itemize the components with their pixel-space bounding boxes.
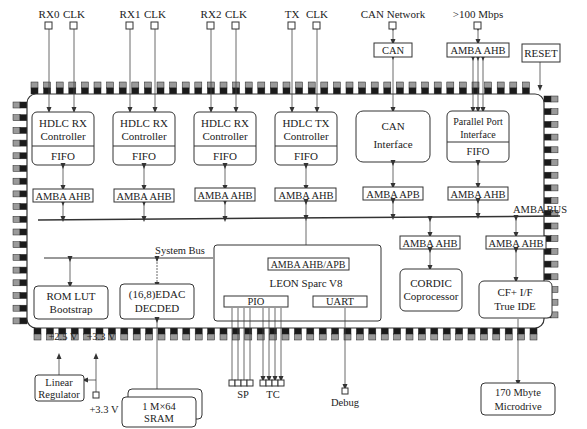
edac-subtitle: DECDED <box>135 302 180 314</box>
rom-lut-module: ROM LUT Bootstrap <box>34 286 108 319</box>
hdlc-rx2-subtitle: Controller <box>202 130 248 142</box>
leon-title: LEON Sparc V8 <box>269 277 343 289</box>
voltage-3v3-label: +3.3 V <box>86 331 115 342</box>
sram-module: 1 M×64 SRAM <box>122 389 202 427</box>
cordic-module: AMBA AHB CORDIC Coprocessor <box>400 236 462 311</box>
hdlc-rx0-title: HDLC RX <box>39 117 87 129</box>
parallel-amba-label: AMBA AHB <box>450 189 505 200</box>
reset-label: RESET <box>524 47 558 59</box>
hdlc-rx1-module: HDLC RX Controller FIFO <box>113 112 175 165</box>
hdlc-rx2-module: HDLC RX Controller FIFO <box>194 112 256 165</box>
leon-sparc-module: AMBA AHB/APB LEON Sparc V8 PIO UART <box>214 245 381 321</box>
cordic-amba-label: AMBA AHB <box>402 238 457 249</box>
hdlc-rx1-subtitle: Controller <box>121 130 167 142</box>
external-pads-top <box>45 22 481 29</box>
edac-module: (16,8)EDAC DECDED <box>120 284 194 319</box>
cf-subtitle: True IDE <box>494 300 536 312</box>
parallel-port-fifo: FIFO <box>467 146 490 157</box>
signal-speed: >100 Mbps <box>453 8 504 20</box>
hdlc-tx-module: HDLC TX Controller FIFO <box>275 112 337 165</box>
amba-ahb-external-label: AMBA AHB <box>450 45 505 56</box>
regulator-subtitle: Regulator <box>38 389 80 400</box>
block-diagram: RX0 CLK RX1 CLK RX2 CLK TX CLK CAN Netwo… <box>0 0 587 429</box>
voltage-3v3-input-label: +3.3 V <box>89 404 118 415</box>
amba-bus-label: AMBA BUS <box>513 204 567 215</box>
uart-label: UART <box>326 296 355 307</box>
signal-tx: TX <box>285 8 300 20</box>
chip-pins-left <box>13 102 27 324</box>
debug-label: Debug <box>331 397 360 408</box>
edac-title: (16,8)EDAC <box>129 288 186 301</box>
can-amba-label: AMBA APB <box>366 189 419 200</box>
signal-clk0: CLK <box>63 8 85 20</box>
signal-rx1: RX1 <box>120 8 141 20</box>
signal-clk1: CLK <box>144 8 166 20</box>
parallel-port-module: Parallel Port Interface FIFO <box>447 111 509 162</box>
can-interface-module: CAN Interface <box>356 111 430 162</box>
hdlc-rx1-fifo: FIFO <box>132 150 156 162</box>
hdlc-rx0-subtitle: Controller <box>40 130 86 142</box>
hdlc-tx-subtitle: Controller <box>283 130 329 142</box>
regulator-title: Linear <box>45 377 73 388</box>
signal-clk2: CLK <box>225 8 247 20</box>
sram-subtitle: SRAM <box>144 413 174 424</box>
hdlc-rx0-module: HDLC RX Controller FIFO <box>32 112 94 165</box>
leon-amba-label: AMBA AHB/APB <box>271 259 346 270</box>
cf-amba-label: AMBA AHB <box>488 238 543 249</box>
hdlc-rx1-amba-label: AMBA AHB <box>116 191 171 202</box>
linear-regulator: Linear Regulator <box>35 375 84 401</box>
hdlc-rx2-amba-label: AMBA AHB <box>197 190 252 201</box>
sp-label: SP <box>237 389 249 400</box>
cordic-subtitle: Coprocessor <box>404 290 459 302</box>
hdlc-tx-title: HDLC TX <box>282 117 329 129</box>
sram-title: 1 M×64 <box>142 401 176 412</box>
hdlc-rx0-fifo: FIFO <box>51 150 75 162</box>
cordic-title: CORDIC <box>410 277 452 289</box>
hdlc-rx1-title: HDLC RX <box>120 117 168 129</box>
signal-clk3: CLK <box>306 8 328 20</box>
microdrive-title: 170 Mbyte <box>495 387 541 398</box>
rom-lut-title: ROM LUT <box>46 290 95 302</box>
hdlc-rx2-title: HDLC RX <box>201 117 249 129</box>
parallel-port-title: Parallel Port <box>453 116 503 127</box>
voltage-2v5-label: +2.5 V <box>48 331 77 342</box>
pad-3v3-input <box>93 392 99 398</box>
rom-lut-subtitle: Bootstrap <box>50 303 93 315</box>
chip-pins-top <box>31 82 529 94</box>
pio-label: PIO <box>248 296 265 307</box>
can-interface-subtitle: Interface <box>373 138 412 150</box>
can-interface-title: CAN <box>381 120 404 132</box>
can-box-label: CAN <box>382 45 405 56</box>
signal-rx2: RX2 <box>201 8 222 20</box>
system-bus-label: System Bus <box>155 245 205 256</box>
parallel-port-subtitle: Interface <box>460 129 496 140</box>
hdlc-rx0-amba-label: AMBA AHB <box>35 191 90 202</box>
hdlc-rx2-fifo: FIFO <box>213 150 237 162</box>
signal-can-network: CAN Network <box>361 8 426 20</box>
microdrive-module: 170 Mbyte Microdrive <box>481 383 555 415</box>
tc-label: TC <box>266 389 279 400</box>
cf-title: CF+ I/F <box>497 286 532 298</box>
hdlc-tx-fifo: FIFO <box>294 150 318 162</box>
hdlc-tx-amba-label: AMBA AHB <box>278 190 333 201</box>
signal-rx0: RX0 <box>39 8 60 20</box>
microdrive-subtitle: Microdrive <box>494 401 542 412</box>
